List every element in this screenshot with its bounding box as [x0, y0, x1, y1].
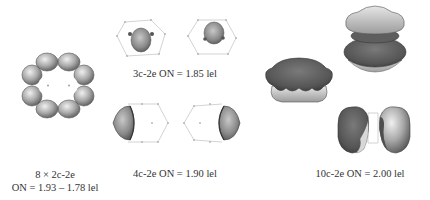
ring-orbital-panel — [18, 52, 98, 120]
ring-orbital-occupancy: ON = 1.93 – 1.78 lel — [0, 181, 110, 194]
ten-center-isosurface-side-icon — [334, 103, 414, 155]
four-center-caption: 4c-2e ON = 1.90 lel — [120, 167, 230, 180]
three-center-isosurface-alt-icon — [184, 16, 240, 60]
four-center-view-1 — [108, 100, 168, 144]
ring-orbital-caption: 8 × 2c-2e ON = 1.93 – 1.78 lel — [0, 168, 110, 194]
ten-center-caption: 10c-2e ON = 2.00 lel — [300, 167, 420, 180]
ten-center-view-front — [262, 56, 336, 106]
ten-center-view-side — [334, 103, 414, 155]
four-center-isosurface-alt-icon — [182, 100, 246, 144]
three-center-view-2 — [184, 16, 240, 60]
ten-center-isosurface-front-icon — [262, 56, 336, 106]
four-center-view-2 — [182, 100, 246, 144]
ten-center-isosurface-top-icon — [342, 6, 408, 72]
ring-orbital-title: 8 × 2c-2e — [0, 168, 110, 181]
three-center-view-1 — [113, 16, 169, 60]
three-center-caption: 3c-2e ON = 1.85 lel — [120, 67, 230, 80]
three-center-isosurface-icon — [113, 16, 169, 60]
four-center-isosurface-icon — [108, 100, 168, 144]
ten-center-view-top — [342, 6, 408, 72]
ring-isosurface-icon — [18, 52, 98, 120]
